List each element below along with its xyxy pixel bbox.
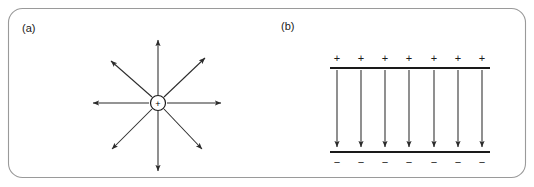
bottom-plate-charge: −	[431, 156, 437, 168]
bottom-plate-charge: −	[358, 156, 364, 168]
top-plate-charge: +	[455, 52, 461, 64]
point-charge: +	[151, 96, 166, 111]
panel-a-label: (a)	[22, 22, 35, 34]
figure-root: (a) + (b) + +	[0, 0, 534, 187]
top-plate-charge: +	[334, 52, 340, 64]
bottom-plate-charge: −	[382, 156, 388, 168]
panel-b: (b) + + + + + + +	[281, 20, 490, 168]
top-plate-charge: +	[479, 52, 485, 64]
bottom-plate-charges: − − − − − − −	[334, 156, 485, 168]
top-plate-charge: +	[358, 52, 364, 64]
panel-b-label: (b)	[281, 20, 294, 32]
field-arrow-southwest	[112, 109, 152, 149]
bottom-plate-charge: −	[455, 156, 461, 168]
top-plate-charge: +	[431, 52, 437, 64]
bottom-plate-charge: −	[479, 156, 485, 168]
top-plate-charge: +	[406, 52, 412, 64]
panel-b-field-arrows	[337, 70, 482, 147]
top-plate-charge: +	[382, 52, 388, 64]
panel-a: (a) +	[22, 22, 221, 171]
electric-field-figure: (a) + (b) + +	[0, 0, 534, 187]
field-arrow-northwest	[111, 61, 152, 97]
bottom-plate-charge: −	[334, 156, 340, 168]
field-arrow-southeast	[164, 109, 202, 149]
point-charge-symbol: +	[155, 99, 160, 109]
bottom-plate-charge: −	[406, 156, 412, 168]
field-arrow-northeast	[164, 58, 205, 97]
top-plate-charges: + + + + + + +	[334, 52, 485, 64]
